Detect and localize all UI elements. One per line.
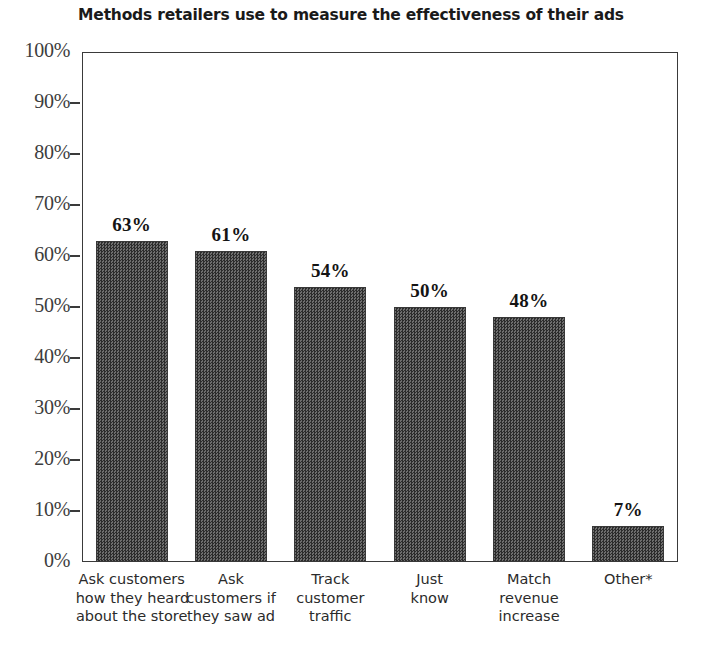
bar-value-label: 54% — [278, 260, 382, 282]
x-axis-category-label: Trackcustomertraffic — [274, 570, 386, 626]
bar-group[interactable]: 54% — [294, 52, 366, 562]
y-axis-tick-label: 100% — [25, 39, 70, 62]
x-axis-category-label: Askcustomers ifthey saw ad — [175, 570, 287, 626]
bar[interactable] — [96, 241, 168, 562]
y-axis-tick-mark — [70, 153, 80, 155]
x-axis-category-line: customer — [274, 589, 386, 608]
footnote-strip — [14, 645, 434, 652]
x-axis-category-line: Other* — [572, 570, 684, 589]
y-axis-tick-label: 70% — [34, 192, 70, 215]
bar[interactable] — [294, 287, 366, 562]
y-axis-tick-label: 40% — [34, 345, 70, 368]
bar[interactable] — [493, 317, 565, 562]
y-axis-tick-mark — [70, 306, 80, 308]
chart-title: Methods retailers use to measure the eff… — [0, 6, 702, 24]
bar-value-label: 48% — [477, 290, 581, 312]
bar-value-label: 7% — [576, 499, 680, 521]
y-axis-tick-label: 30% — [34, 396, 70, 419]
x-axis-category-line: Ask customers — [76, 570, 188, 589]
bar-value-label: 50% — [378, 280, 482, 302]
x-axis-category-line: they saw ad — [175, 607, 287, 626]
x-axis-category-line: revenue — [473, 589, 585, 608]
x-axis-category-line: how they heard — [76, 589, 188, 608]
y-axis-tick-label: 80% — [34, 141, 70, 164]
x-axis-category-line: traffic — [274, 607, 386, 626]
x-axis-category-line: Match — [473, 570, 585, 589]
y-axis-tick-mark — [70, 408, 80, 410]
bar-value-label: 61% — [179, 224, 283, 246]
bar-group[interactable]: 63% — [96, 52, 168, 562]
y-axis-tick-label: 10% — [34, 498, 70, 521]
y-axis-tick-label: 20% — [34, 447, 70, 470]
bar-group[interactable]: 61% — [195, 52, 267, 562]
x-axis-category-line: Just — [374, 570, 486, 589]
y-axis-tick-mark — [70, 204, 80, 206]
bar[interactable] — [195, 251, 267, 562]
x-axis-category-label: Ask customershow they heardabout the sto… — [76, 570, 188, 626]
bar-group[interactable]: 7% — [592, 52, 664, 562]
x-axis-category-line: Ask — [175, 570, 287, 589]
bar[interactable] — [592, 526, 664, 562]
bar[interactable] — [394, 307, 466, 562]
bar-value-label: 63% — [80, 214, 184, 236]
y-axis-tick-label: 60% — [34, 243, 70, 266]
bar-group[interactable]: 50% — [394, 52, 466, 562]
x-axis: Ask customershow they heardabout the sto… — [82, 570, 678, 646]
y-axis-tick-mark — [70, 102, 80, 104]
bar-group[interactable]: 48% — [493, 52, 565, 562]
x-axis-category-line: know — [374, 589, 486, 608]
x-axis-category-label: Other* — [572, 570, 684, 589]
y-axis-tick-mark — [70, 510, 80, 512]
y-axis-tick-mark — [70, 459, 80, 461]
y-axis-tick-label: 50% — [34, 294, 70, 317]
x-axis-category-line: increase — [473, 607, 585, 626]
x-axis-category-label: Justknow — [374, 570, 486, 607]
y-axis-tick-mark — [70, 357, 80, 359]
bars-layer: 63%61%54%50%48%7% — [82, 52, 678, 562]
y-axis-tick-label: 90% — [34, 90, 70, 113]
x-axis-category-line: about the store — [76, 607, 188, 626]
y-axis-tick-label: 0% — [44, 549, 70, 572]
x-axis-category-line: Track — [274, 570, 386, 589]
x-axis-category-line: customers if — [175, 589, 287, 608]
bar-chart-figure: Methods retailers use to measure the eff… — [0, 0, 702, 652]
y-axis-tick-mark — [70, 255, 80, 257]
y-axis: 100%90%80%70%60%50%40%30%20%10%0% — [0, 52, 82, 562]
x-axis-category-label: Matchrevenueincrease — [473, 570, 585, 626]
